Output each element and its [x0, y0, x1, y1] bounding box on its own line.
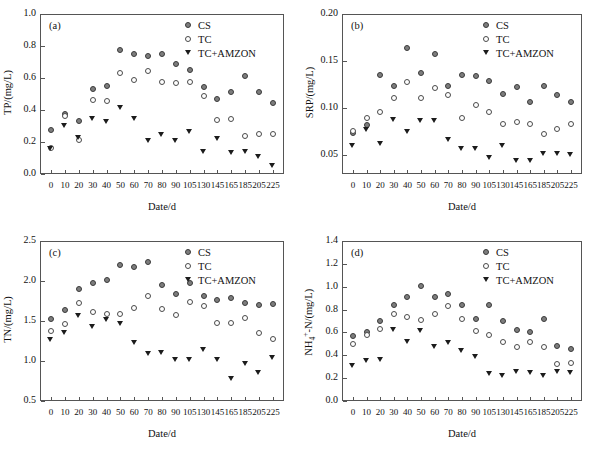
x-tick-c-10: [190, 397, 191, 401]
x-tick-d-9: [476, 397, 477, 401]
y-tick-label-b-2: 0.15: [308, 54, 338, 65]
data-point-cs: [201, 293, 207, 299]
x-axis-label-a: Date/d: [40, 201, 284, 212]
data-point-tc-amzon: [527, 158, 533, 163]
data-point-cs: [104, 277, 110, 283]
data-point-tc-amzon: [349, 143, 355, 148]
y-axis-label-a: TP/(mg/L): [2, 38, 13, 148]
y-tick-a-5: [41, 14, 45, 15]
data-point-tc-amzon: [472, 146, 478, 151]
x-tick-c-4: [107, 397, 108, 401]
y-tick-a-4: [41, 46, 45, 47]
x-tick-b-4: [407, 170, 408, 174]
x-tick-d-10: [489, 397, 490, 401]
x-tick-a-9: [176, 170, 177, 174]
data-point-tc: [514, 119, 520, 125]
data-point-tc-amzon: [200, 149, 206, 154]
x-tick-d-4: [407, 397, 408, 401]
x-tick-b-15: [557, 170, 558, 174]
data-point-cs: [418, 283, 424, 289]
x-tick-c-0: [51, 397, 52, 401]
y-tick-d-4: [343, 310, 347, 311]
filled-triangle-down-icon-glyph: [483, 277, 489, 282]
y-tick-c-3: [41, 281, 45, 282]
data-point-tc: [62, 113, 68, 119]
data-point-cs: [76, 118, 82, 124]
x-tick-a-2: [79, 170, 80, 174]
data-point-tc-amzon: [554, 369, 560, 374]
filled-triangle-down-icon: [182, 274, 196, 286]
filled-circle-icon: [182, 246, 196, 258]
data-point-cs: [391, 83, 397, 89]
data-point-cs: [473, 73, 479, 79]
legend-item-b-1: TC: [480, 32, 554, 46]
x-tick-d-1: [367, 397, 368, 401]
open-circle-icon-glyph: [483, 36, 489, 42]
legend-item-d-1: TC: [480, 259, 554, 273]
filled-triangle-down-icon: [182, 47, 196, 59]
data-point-cs: [500, 318, 506, 324]
x-tick-a-3: [93, 170, 94, 174]
x-tick-a-4: [107, 170, 108, 174]
legend-label-d-2: TC+AMZON: [494, 275, 554, 286]
data-point-tc-amzon: [390, 327, 396, 332]
x-tick-c-5: [120, 397, 121, 401]
open-circle-icon-glyph: [483, 263, 489, 269]
data-point-tc-amzon: [158, 350, 164, 355]
x-tick-label-c-16: 225: [262, 407, 284, 417]
data-point-cs: [201, 84, 207, 90]
legend-label-b-1: TC: [494, 34, 509, 45]
y-tick-label-b-1: 0.10: [308, 101, 338, 112]
y-tick-d-3: [343, 332, 347, 333]
legend-item-b-2: TC+AMZON: [480, 46, 554, 60]
legend-b: CSTCTC+AMZON: [480, 18, 554, 60]
data-point-tc-amzon: [61, 330, 67, 335]
data-point-tc-amzon: [404, 129, 410, 134]
legend-label-a-1: TC: [196, 34, 211, 45]
legend-item-c-2: TC+AMZON: [182, 273, 256, 287]
data-point-cs: [541, 83, 547, 89]
y-tick-label-d-5: 1.0: [308, 280, 338, 291]
data-point-tc-amzon: [377, 357, 383, 362]
data-point-tc-amzon: [540, 373, 546, 378]
x-tick-c-6: [134, 397, 135, 401]
data-point-tc: [187, 299, 193, 305]
x-tick-b-12: [517, 170, 518, 174]
data-point-tc-amzon: [417, 328, 423, 333]
data-point-tc: [514, 344, 520, 350]
data-point-tc: [473, 102, 479, 108]
data-point-tc-amzon: [47, 337, 53, 342]
x-tick-c-16: [273, 397, 274, 401]
x-tick-b-9: [476, 170, 477, 174]
data-point-tc-amzon: [61, 123, 67, 128]
x-tick-a-13: [231, 170, 232, 174]
data-point-tc-amzon: [527, 370, 533, 375]
data-point-tc-amzon: [158, 132, 164, 137]
data-point-tc-amzon: [567, 152, 573, 157]
x-tick-b-16: [571, 170, 572, 174]
x-tick-b-2: [380, 170, 381, 174]
data-point-tc-amzon: [349, 363, 355, 368]
y-tick-label-d-2: 0.4: [308, 348, 338, 359]
filled-circle-icon-glyph: [185, 249, 191, 255]
data-point-tc-amzon: [486, 155, 492, 160]
x-tick-a-0: [51, 170, 52, 174]
x-axis-label-b: Date/d: [342, 201, 582, 212]
open-circle-icon: [480, 33, 494, 45]
y-tick-label-d-7: 1.4: [308, 234, 338, 245]
data-point-cs: [541, 316, 547, 322]
y-tick-d-7: [343, 241, 347, 242]
data-point-cs: [228, 89, 234, 95]
x-tick-b-6: [435, 170, 436, 174]
data-point-tc: [104, 98, 110, 104]
data-point-cs: [173, 291, 179, 297]
y-tick-label-c-1: 1.0: [6, 354, 36, 365]
panel-a: (a)TP/(mg/L)Date/d0.00.20.40.60.81.00102…: [0, 0, 298, 226]
x-tick-d-7: [448, 397, 449, 401]
filled-circle-icon-glyph: [185, 22, 191, 28]
x-tick-label-a-16: 225: [262, 180, 284, 190]
data-point-tc-amzon: [540, 151, 546, 156]
data-point-tc-amzon: [458, 348, 464, 353]
legend-label-b-0: CS: [494, 20, 509, 31]
x-tick-d-5: [421, 397, 422, 401]
